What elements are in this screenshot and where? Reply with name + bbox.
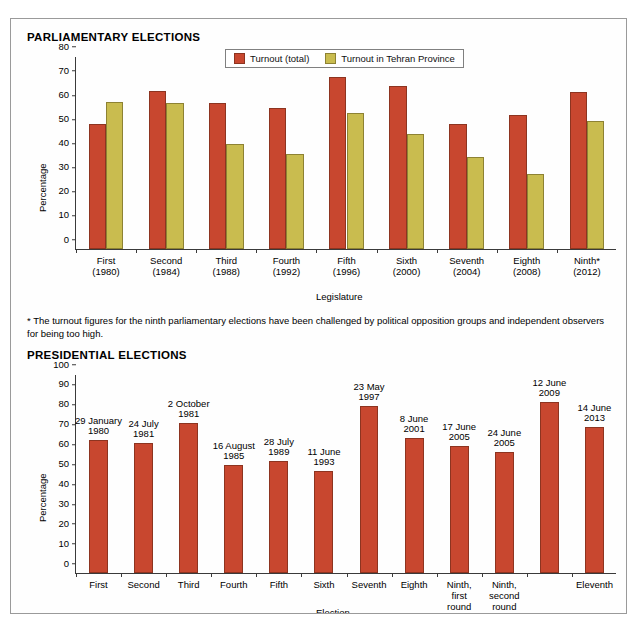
bar: [224, 465, 243, 573]
bar-value-label: 2 October 1981: [153, 399, 225, 420]
presidential-plot-area: 0102030405060708090100First29 January 19…: [75, 375, 616, 574]
x-axis-category-label: Fifth: [256, 579, 301, 590]
bar: [585, 427, 604, 573]
legend-item-turnout-total: Turnout (total): [234, 53, 309, 64]
bar: [314, 471, 333, 573]
bar: [149, 91, 166, 249]
bar: [509, 115, 526, 249]
legend-swatch-icon-total: [234, 53, 245, 64]
parliamentary-footnote: * The turnout figures for the ninth parl…: [27, 315, 615, 340]
parliamentary-x-axis-label: Legislature: [316, 291, 362, 302]
bar: [269, 108, 286, 249]
y-axis-tick-label: 30: [58, 499, 76, 509]
parliamentary-y-axis-label: Percentage: [37, 163, 48, 212]
bar: [89, 124, 106, 249]
x-axis-tick: [437, 573, 438, 577]
x-axis-tick: [316, 249, 317, 253]
x-axis-category-label: Fourth (1992): [256, 255, 316, 277]
x-axis-tick: [76, 249, 77, 253]
bar: [226, 144, 243, 249]
x-axis-tick: [557, 249, 558, 253]
legend-item-turnout-tehran: Turnout in Tehran Province: [325, 53, 455, 64]
x-axis-category-label: Second: [121, 579, 166, 590]
y-axis-tick-label: 80: [58, 42, 76, 52]
bar: [450, 446, 469, 573]
parliamentary-section-title: PARLIAMENTARY ELECTIONS: [27, 31, 200, 43]
x-axis-category-label: Ninth* (2012): [557, 255, 617, 277]
y-axis-tick-label: 30: [58, 162, 76, 172]
x-axis-category-label: Fourth: [211, 579, 256, 590]
x-axis-tick: [527, 573, 528, 577]
bar: [449, 124, 466, 249]
presidential-y-axis-label: Percentage: [37, 473, 48, 522]
bar-value-label: 11 June 1993: [288, 447, 360, 468]
bar: [570, 92, 587, 249]
x-axis-tick: [76, 573, 77, 577]
x-axis-category-label: Seventh: [347, 579, 392, 590]
bar: [286, 154, 303, 249]
x-axis-tick: [211, 573, 212, 577]
y-axis-tick-label: 80: [58, 400, 76, 410]
bar: [209, 103, 226, 249]
y-axis-tick-label: 40: [58, 138, 76, 148]
y-axis-tick-label: 20: [58, 187, 76, 197]
x-axis-tick: [136, 249, 137, 253]
y-axis-tick-label: 70: [58, 66, 76, 76]
x-axis-category-label: First: [76, 579, 121, 590]
y-axis-tick-label: 50: [58, 459, 76, 469]
x-axis-category-label: Eleventh: [572, 579, 617, 590]
bar: [389, 86, 406, 249]
bar: [89, 440, 108, 573]
x-axis-category-label: Third: [166, 579, 211, 590]
x-axis-category-label: Fifth (1996): [316, 255, 376, 277]
y-axis-tick-label: 0: [64, 235, 76, 245]
x-axis-tick: [301, 573, 302, 577]
x-axis-tick: [256, 249, 257, 253]
presidential-section-title: PRESIDENTIAL ELECTIONS: [27, 349, 187, 361]
y-axis-tick-label: 100: [53, 360, 76, 370]
bar-value-label: 24 July 1981: [108, 419, 180, 440]
x-axis-tick: [256, 573, 257, 577]
x-axis-tick: [347, 573, 348, 577]
x-axis-tick: [377, 249, 378, 253]
legend-swatch-icon-tehran: [325, 53, 336, 64]
bar: [166, 103, 183, 249]
bar: [134, 443, 153, 573]
chart-legend: Turnout (total) Turnout in Tehran Provin…: [225, 49, 464, 68]
bar-value-label: 24 June 2005: [468, 428, 540, 449]
legend-label-tehran: Turnout in Tehran Province: [341, 53, 455, 64]
y-axis-tick-label: 60: [58, 439, 76, 449]
presidential-chart: Percentage 0102030405060708090100First29…: [11, 367, 627, 612]
x-axis-tick: [392, 573, 393, 577]
x-axis-tick: [482, 573, 483, 577]
x-axis-category-label: Sixth: [301, 579, 346, 590]
y-axis-tick-label: 40: [58, 479, 76, 489]
y-axis-tick-label: 10: [58, 211, 76, 221]
bar: [527, 174, 544, 249]
x-axis-category-label: Seventh (2004): [437, 255, 497, 277]
x-axis-tick: [437, 249, 438, 253]
presidential-x-axis-label: Election: [316, 607, 350, 614]
x-axis-category-label: Ninth, second round: [482, 579, 527, 612]
y-axis-tick-label: 90: [58, 380, 76, 390]
bar: [360, 406, 379, 573]
x-axis-tick: [121, 573, 122, 577]
x-axis-category-label: Second (1984): [136, 255, 196, 277]
page-frame: PARLIAMENTARY ELECTIONS Percentage 01020…: [10, 18, 627, 614]
bar: [179, 423, 198, 573]
y-axis-tick-label: 60: [58, 90, 76, 100]
bar: [587, 121, 604, 249]
bar: [467, 157, 484, 249]
bar: [540, 402, 559, 573]
bar: [329, 77, 346, 249]
x-axis-category-label: Eighth: [392, 579, 437, 590]
y-axis-tick-label: 20: [58, 519, 76, 529]
y-axis-tick-label: 10: [58, 539, 76, 549]
x-axis-tick: [166, 573, 167, 577]
x-axis-tick: [497, 249, 498, 253]
bar-value-label: 23 May 1997: [333, 382, 405, 403]
bar: [405, 438, 424, 573]
x-axis-category-label: Sixth (2000): [377, 255, 437, 277]
parliamentary-chart: Percentage 01020304050607080First (1980)…: [11, 47, 627, 315]
bar: [269, 461, 288, 573]
